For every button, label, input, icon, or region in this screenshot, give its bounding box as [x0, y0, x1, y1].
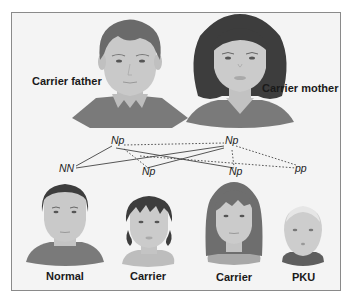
child-carrier-1-portrait — [122, 196, 174, 267]
child-carrier-2-label: Carrier — [216, 271, 252, 283]
child-carrier-2-portrait — [206, 182, 263, 265]
pku-inheritance-diagram — [0, 0, 352, 298]
father-portrait — [72, 19, 188, 128]
mother-genotype: Np — [225, 134, 238, 146]
child-carrier-1-genotype: Np — [142, 165, 155, 177]
inheritance-lines — [76, 143, 296, 168]
child-pku-label: PKU — [292, 271, 315, 283]
mother-label: Carrier mother — [262, 82, 338, 94]
mother-portrait — [186, 14, 294, 128]
father-genotype: Np — [111, 134, 124, 146]
father-label: Carrier father — [32, 75, 102, 87]
child-normal-genotype: NN — [59, 162, 74, 174]
child-pku-portrait — [282, 206, 324, 266]
child-normal-label: Normal — [46, 270, 84, 282]
child-pku-genotype: pp — [295, 162, 307, 174]
child-normal-portrait — [26, 184, 104, 266]
child-carrier-1-label: Carrier — [130, 270, 166, 282]
child-carrier-2-genotype: Np — [229, 165, 242, 177]
